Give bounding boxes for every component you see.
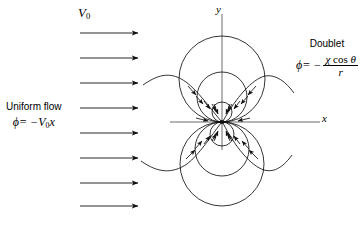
- open-streamline-upper-left: [143, 75, 221, 121]
- open-streamline-upper-right: [223, 76, 294, 121]
- chi-symbol: χ: [325, 53, 330, 65]
- doublet-equation: ϕ= − χ cos θ r: [296, 53, 358, 79]
- fraction-numerator: χ cos θ: [323, 53, 357, 67]
- velocity-symbol: V: [38, 115, 45, 129]
- theta-symbol: θ: [350, 53, 355, 65]
- fraction-denominator: r: [338, 66, 342, 79]
- open-streamline-lower-left: [141, 123, 221, 171]
- uniform-flow-equation: ϕ= −V0x: [6, 116, 62, 130]
- uniform-flow-title: Uniform flow: [6, 101, 62, 113]
- inflow-arrow: [204, 136, 210, 144]
- cos-operator: cos: [333, 53, 348, 65]
- x-axis-label: x: [322, 112, 327, 125]
- velocity-symbol: V: [78, 5, 86, 20]
- doublet-annotation: Doublet ϕ= − χ cos θ r: [296, 38, 358, 79]
- doublet-title: Doublet: [296, 38, 358, 50]
- velocity-subscript: 0: [86, 11, 90, 21]
- origin-point: [220, 120, 224, 124]
- doublet-uniform-flow-figure: V0 Uniform flow ϕ= −V0x Doublet ϕ= − χ c…: [0, 0, 364, 225]
- equals-minus: = −: [302, 59, 321, 73]
- y-axis-label: y: [216, 3, 221, 16]
- doublet-fraction: χ cos θ r: [323, 53, 357, 79]
- equals-minus: = −: [19, 115, 38, 129]
- x-variable: x: [49, 115, 54, 129]
- free-stream-velocity-label: V0: [78, 6, 90, 22]
- inflow-arrow: [249, 150, 258, 159]
- uniform-flow-annotation: Uniform flow ϕ= −V0x: [6, 101, 62, 130]
- inflow-arrow: [248, 86, 256, 95]
- inflow-arrow: [204, 101, 210, 109]
- coordinate-axes: [170, 14, 320, 150]
- inflow-arrow: [196, 118, 208, 121]
- uniform-flow-arrows: [80, 33, 138, 206]
